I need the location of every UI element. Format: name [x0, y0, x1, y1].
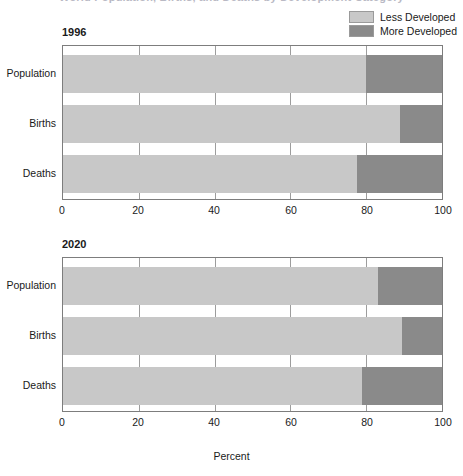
- plot-area-2020: [62, 257, 443, 412]
- category-label-deaths: Deaths: [0, 167, 56, 179]
- xtick-60: 60: [285, 416, 297, 428]
- bar-segment-more-developed: [378, 267, 442, 305]
- bar-segment-more-developed: [400, 105, 442, 143]
- xtick-40: 40: [208, 204, 220, 216]
- category-label-population: Population: [0, 279, 56, 291]
- bar-segment-less-developed: [63, 317, 402, 355]
- legend-swatch-more-developed: [349, 25, 374, 37]
- bar-segment-less-developed: [63, 155, 357, 193]
- category-label-population: Population: [0, 67, 56, 79]
- bar-row-births: [63, 317, 442, 355]
- bar-row-deaths: [63, 367, 442, 405]
- xtick-40: 40: [208, 416, 220, 428]
- chart-title: World Population, Births, and Deaths by …: [0, 0, 463, 3]
- bar-row-deaths: [63, 155, 442, 193]
- xtick-80: 80: [361, 416, 373, 428]
- bar-row-births: [63, 105, 442, 143]
- bar-segment-more-developed: [357, 155, 442, 193]
- xtick-0: 0: [59, 416, 65, 428]
- chart-title-text: World Population, Births, and Deaths by …: [0, 0, 463, 3]
- legend-label-less-developed: Less Developed: [380, 11, 455, 23]
- xtick-100: 100: [434, 416, 452, 428]
- panel-title-2020: 2020: [62, 238, 86, 250]
- legend-swatch-less-developed: [349, 11, 374, 23]
- xtick-20: 20: [132, 416, 144, 428]
- legend-item-more-developed: More Developed: [349, 24, 457, 37]
- bar-segment-more-developed: [366, 55, 442, 93]
- bar-segment-less-developed: [63, 367, 362, 405]
- panel-title-1996: 1996: [62, 26, 86, 38]
- xtick-100: 100: [434, 204, 452, 216]
- bar-row-population: [63, 267, 442, 305]
- bar-segment-less-developed: [63, 55, 366, 93]
- category-label-deaths: Deaths: [0, 379, 56, 391]
- xtick-20: 20: [132, 204, 144, 216]
- x-axis-label: Percent: [0, 450, 463, 462]
- bar-segment-less-developed: [63, 267, 378, 305]
- xtick-0: 0: [59, 204, 65, 216]
- legend-label-more-developed: More Developed: [380, 25, 457, 37]
- bar-row-population: [63, 55, 442, 93]
- xtick-80: 80: [361, 204, 373, 216]
- legend: Less Developed More Developed: [349, 10, 457, 37]
- bar-segment-more-developed: [362, 367, 442, 405]
- plot-area-1996: [62, 45, 443, 200]
- bar-segment-more-developed: [402, 317, 442, 355]
- category-label-births: Births: [0, 117, 56, 129]
- category-label-births: Births: [0, 329, 56, 341]
- bar-segment-less-developed: [63, 105, 400, 143]
- xtick-60: 60: [285, 204, 297, 216]
- legend-item-less-developed: Less Developed: [349, 10, 457, 23]
